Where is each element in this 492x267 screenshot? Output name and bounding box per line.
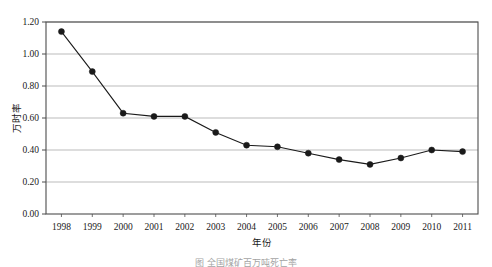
data-point: [151, 113, 157, 119]
data-series-line: [61, 32, 462, 165]
x-tick-label: 2002: [175, 222, 194, 232]
y-tick-label: 0.20: [22, 177, 39, 187]
y-tick-label: 0.00: [22, 209, 39, 219]
x-axis-title: 年份: [252, 237, 272, 248]
x-tick-label: 1999: [83, 222, 102, 232]
data-point: [89, 69, 95, 75]
data-point: [460, 149, 466, 155]
y-axis-title-text: 万时率: [11, 103, 22, 133]
x-tick-label: 2011: [453, 222, 472, 232]
data-point: [336, 157, 342, 163]
data-point: [305, 150, 311, 156]
data-point: [182, 113, 188, 119]
x-tick-label: 2001: [145, 222, 164, 232]
x-axis-title-text: 年份: [252, 237, 272, 248]
x-tick-label: 2005: [268, 222, 287, 232]
y-tick-label: 1.00: [22, 49, 39, 59]
y-axis-title: 万时率: [11, 103, 22, 133]
y-tick-label: 1.20: [22, 17, 39, 27]
data-points: [58, 29, 465, 168]
x-tick-label: 2004: [237, 222, 256, 232]
y-tick-labels: 0.000.200.400.600.801.001.20: [22, 17, 46, 219]
x-tick-label: 1998: [52, 222, 71, 232]
data-point: [120, 110, 126, 116]
data-point: [274, 144, 280, 150]
y-tick-label: 0.60: [22, 113, 39, 123]
data-point: [429, 147, 435, 153]
x-tick-labels: 1998199920002001200220032004200520062007…: [52, 214, 472, 232]
x-tick-label: 2008: [361, 222, 380, 232]
x-tick-label: 2007: [330, 222, 349, 232]
x-tick-label: 2000: [114, 222, 133, 232]
y-tick-label: 0.40: [22, 145, 39, 155]
series-polyline: [61, 32, 462, 165]
data-point: [398, 155, 404, 161]
x-tick-label: 2009: [391, 222, 410, 232]
x-tick-label: 2003: [206, 222, 225, 232]
data-point: [58, 29, 64, 35]
x-tick-label: 2006: [299, 222, 318, 232]
data-point: [244, 142, 250, 148]
data-point: [213, 129, 219, 135]
y-tick-label: 0.80: [22, 81, 39, 91]
x-tick-label: 2010: [422, 222, 441, 232]
gridlines: [46, 22, 478, 182]
figure-caption: 图 全国煤矿百万吨死亡率: [0, 257, 492, 267]
data-point: [367, 161, 373, 167]
